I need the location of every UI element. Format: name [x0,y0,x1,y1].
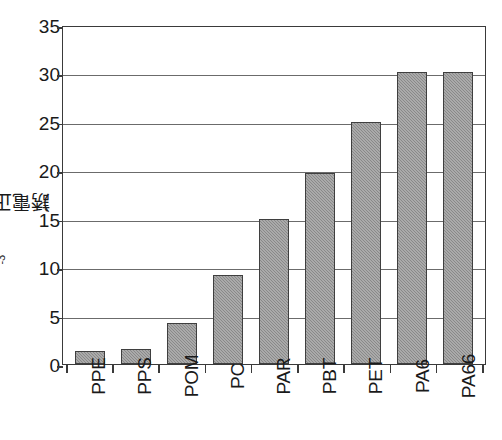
x-axis-category-label: PC [228,363,247,389]
x-label-slot: PET [343,374,389,440]
y-axis-tick-label: 25 [39,113,60,132]
bar [259,219,289,364]
x-axis-category-label: PAR [274,357,293,394]
x-axis-category-label: PET [366,358,385,394]
x-axis-tick-mark [482,365,484,373]
x-axis-category-label: PPS [135,357,154,394]
x-axis-category-label: PA66 [459,354,478,398]
bar [397,72,427,364]
x-axis-category-label: POM [182,355,201,398]
bar-slot [159,27,205,364]
y-axis-tick-label: 35 [39,17,60,36]
x-label-slot: PBT [297,374,343,440]
bar [213,275,243,364]
x-axis-category-label: PPE [89,357,108,394]
x-label-slot: PA66 [436,374,482,440]
x-label-slot: PPS [112,374,158,440]
x-axis-tick-mark [297,365,299,373]
x-axis-category-label: PBT [320,358,339,394]
plot-area [62,26,486,365]
bar-slot [389,27,435,364]
x-axis-tick-mark [158,365,160,373]
x-axis-tick-mark [112,365,114,373]
x-axis-tick-mark [66,365,68,373]
x-label-slot: PC [205,374,251,440]
x-label-slot: PA6 [390,374,436,440]
x-label-slot: PPE [66,374,112,440]
x-axis-tick-mark [436,365,438,373]
x-axis-tick-mark [251,365,253,373]
x-axis-category-label: PA6 [413,359,432,393]
x-label-slot: PAR [251,374,297,440]
bar-slot [343,27,389,364]
y-axis-tick-label: 15 [39,210,60,229]
bar-slot [435,27,481,364]
y-axis-tick-label: 10 [39,259,60,278]
y-axis-title-exponent: -3 [0,255,7,265]
bar-slot [297,27,343,364]
bar [443,72,473,364]
bar [351,122,381,364]
x-axis-category-labels: PPEPPSPOMPCPARPBTPETPA6PA66 [62,374,486,440]
y-axis-tick-label: 5 [49,307,60,326]
y-axis-tick-label: 20 [39,162,60,181]
bar-slot [251,27,297,364]
y-axis-tick-label: 0 [49,356,60,375]
bar-slot [113,27,159,364]
bar-series [63,27,485,364]
bar [305,173,335,364]
x-label-slot: POM [158,374,204,440]
x-axis-tick-mark [205,365,207,373]
y-axis-tick-label: 30 [39,65,60,84]
bar-slot [205,27,251,364]
x-axis-tick-mark [390,365,392,373]
bar-chart: 誘電正接（×10-3） 05101520253035 PPEPPSPOMPCPA… [0,0,502,440]
bar-slot [67,27,113,364]
x-axis-tick-mark [343,365,345,373]
y-axis-tick-labels: 05101520253035 [26,0,60,440]
